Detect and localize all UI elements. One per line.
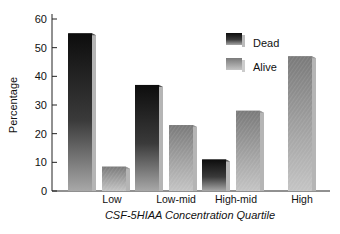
x-tick-label-high-mid: High-mid	[215, 193, 257, 205]
y-tick-label: 60	[35, 13, 47, 25]
x-axis-title: CSF-5HIAA Concentration Quartile	[105, 209, 275, 221]
legend-label-alive: Alive	[253, 61, 277, 73]
y-tick-label: 30	[35, 99, 47, 111]
x-tick-label-low: Low	[102, 193, 122, 205]
bar-alive-high-mid	[236, 111, 264, 191]
legend-item-dead: Dead	[226, 33, 279, 49]
x-tick-labels: LowLow-midHigh-midHigh	[102, 193, 313, 205]
bar-dead-low-mid	[135, 85, 163, 191]
legend: Dead Alive	[226, 33, 279, 73]
bars	[68, 33, 316, 191]
x-tick-label-high: High	[291, 193, 313, 205]
y-axis-title: Percentage	[7, 77, 19, 133]
x-tick-label-low-mid: Low-mid	[156, 193, 196, 205]
legend-swatch-dead	[226, 33, 242, 45]
legend-item-alive: Alive	[226, 58, 277, 73]
bar-alive-high	[288, 56, 316, 191]
y-axis: 0102030405060	[35, 13, 57, 197]
y-tick-label: 10	[35, 156, 47, 168]
y-tick-label: 40	[35, 70, 47, 82]
y-tick-label: 20	[35, 128, 47, 140]
bar-chart: 0102030405060 LowLow-midHigh-midHigh Per…	[0, 0, 340, 234]
legend-swatch-alive	[226, 58, 242, 70]
bar-alive-low-mid	[169, 125, 197, 191]
bar-dead-high-mid	[202, 159, 230, 191]
legend-label-dead: Dead	[253, 37, 279, 49]
y-tick-label: 50	[35, 42, 47, 54]
y-tick-label: 0	[41, 185, 47, 197]
bar-alive-low	[102, 167, 130, 191]
bar-dead-low	[68, 33, 96, 191]
